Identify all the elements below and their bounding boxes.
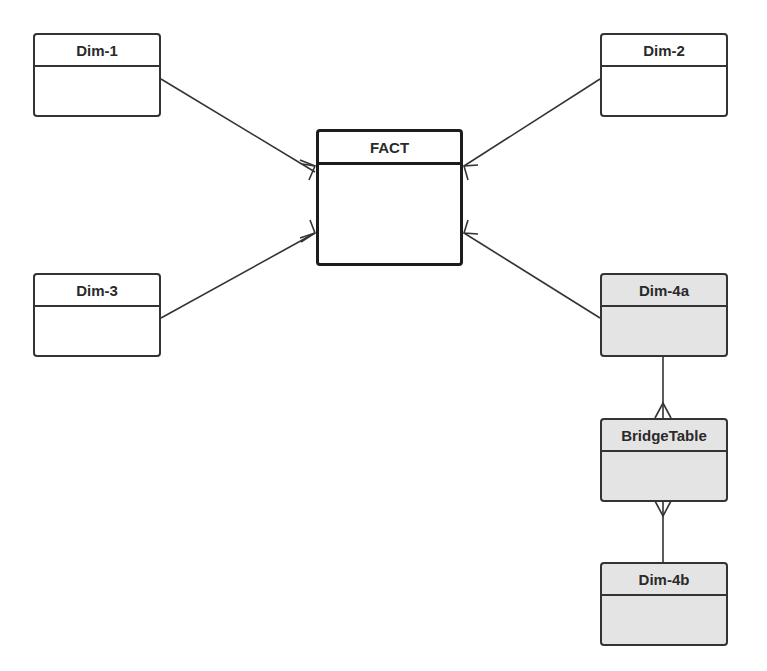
entity-bridge-table[interactable]: BridgeTable: [600, 418, 728, 502]
crowfoot-icon: [300, 160, 315, 180]
entity-title: Dim-4b: [602, 564, 726, 596]
entity-fact[interactable]: FACT: [316, 129, 463, 266]
link-dim3-fact: [161, 233, 315, 318]
entity-title: BridgeTable: [602, 420, 726, 452]
link-dim4a-fact: [464, 233, 600, 318]
entity-title: Dim-2: [602, 35, 726, 67]
entity-title: Dim-1: [35, 35, 159, 67]
entity-dim-4a[interactable]: Dim-4a: [600, 273, 728, 357]
entity-dim-4b[interactable]: Dim-4b: [600, 562, 728, 646]
entity-title: FACT: [319, 132, 460, 165]
diagram-canvas: Dim-1 Dim-2 FACT Dim-3 Dim-4a BridgeTabl…: [0, 0, 767, 671]
entity-title: Dim-3: [35, 275, 159, 307]
entity-title: Dim-4a: [602, 275, 726, 307]
entity-dim-1[interactable]: Dim-1: [33, 33, 161, 117]
entity-dim-2[interactable]: Dim-2: [600, 33, 728, 117]
entity-dim-3[interactable]: Dim-3: [33, 273, 161, 357]
link-dim2-fact: [464, 79, 600, 166]
link-dim1-fact: [161, 79, 315, 172]
crowfoot-icon: [464, 165, 478, 180]
crowfoot-icon: [464, 220, 478, 234]
